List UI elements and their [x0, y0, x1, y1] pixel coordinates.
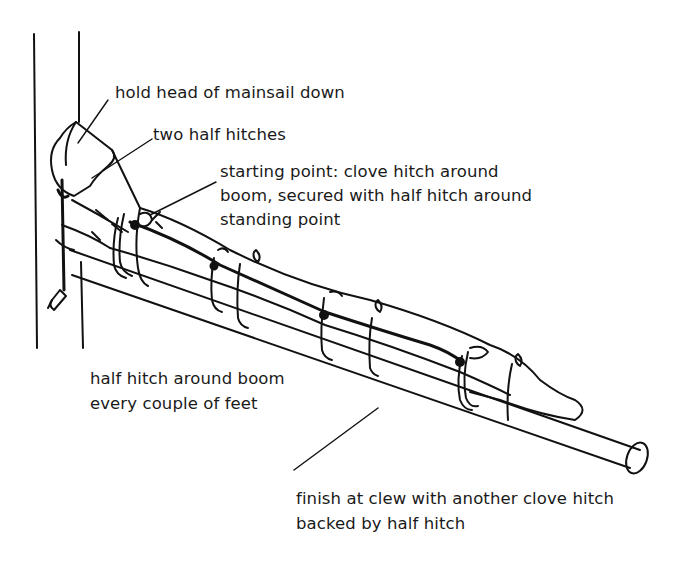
label-finish-at-clew: finish at clew with another clove hitch …: [296, 486, 614, 536]
label-line: finish at clew with another clove hitch: [296, 486, 614, 511]
label-two-half-hitches: two half hitches: [153, 124, 286, 146]
leader-starting-point: [150, 182, 216, 215]
knot-diagram: hold head of mainsail down two half hitc…: [0, 0, 698, 565]
label-starting-point: starting point: clove hitch around boom,…: [220, 160, 532, 232]
label-line: every couple of feet: [90, 391, 285, 416]
leader-finish-at-clew: [294, 408, 378, 470]
label-line: starting point: clove hitch around: [220, 160, 532, 184]
head-downhaul: [48, 180, 68, 310]
label-line: standing point: [220, 208, 532, 232]
label-line: half hitch around boom: [90, 366, 285, 391]
label-line: boom, secured with half hitch around: [220, 184, 532, 208]
label-line: two half hitches: [153, 124, 286, 146]
label-line: hold head of mainsail down: [115, 82, 345, 104]
leader-hold-head: [78, 100, 108, 143]
boom: [70, 250, 652, 476]
label-hold-head-of-mainsail-down: hold head of mainsail down: [115, 82, 345, 104]
label-line: backed by half hitch: [296, 511, 614, 536]
label-half-hitch-every-couple-of-feet: half hitch around boom every couple of f…: [90, 366, 285, 416]
boom-and-sail-illustration: [0, 0, 698, 565]
